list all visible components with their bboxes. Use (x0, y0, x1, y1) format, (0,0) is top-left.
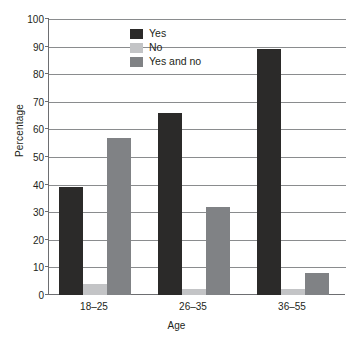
y-axis-tick-label: 80 (33, 69, 44, 80)
legend-item: Yes and no (130, 55, 201, 68)
bar (182, 289, 206, 295)
y-axis-tick-label: 70 (33, 96, 44, 107)
bar (206, 207, 230, 295)
y-axis-tick-label: 40 (33, 179, 44, 190)
y-axis-tick-label: 90 (33, 41, 44, 52)
x-axis-tick-label: 26–35 (179, 301, 207, 312)
y-axis-tick-label: 10 (33, 262, 44, 273)
legend-swatch-icon (130, 57, 143, 67)
bar-chart: Percentage 0102030405060708090100 18–252… (0, 0, 353, 344)
y-axis-tick-label: 50 (33, 152, 44, 163)
bar (83, 284, 107, 295)
legend: YesNoYes and no (130, 27, 201, 69)
legend-swatch-icon (130, 43, 143, 53)
x-axis-tick-label: 36–55 (278, 301, 306, 312)
legend-label: Yes and no (149, 56, 201, 67)
legend-label: Yes (149, 28, 166, 39)
bar (305, 273, 329, 295)
legend-swatch-icon (130, 29, 143, 39)
y-axis-tick-label: 30 (33, 207, 44, 218)
y-axis-title: Percentage (14, 81, 25, 181)
x-axis-tick-label: 18–25 (80, 301, 108, 312)
legend-item: No (130, 41, 201, 54)
bar (59, 187, 83, 295)
y-axis-tick-label: 20 (33, 234, 44, 245)
x-axis-title: Age (0, 320, 353, 331)
y-axis-tick-label: 0 (38, 290, 44, 301)
bar (281, 289, 305, 295)
legend-label: No (149, 42, 162, 53)
bar (107, 138, 131, 295)
bar (158, 113, 182, 295)
bar (257, 49, 281, 295)
y-axis-tick-label: 100 (27, 14, 44, 25)
legend-item: Yes (130, 27, 201, 40)
y-axis-tick-label: 60 (33, 124, 44, 135)
